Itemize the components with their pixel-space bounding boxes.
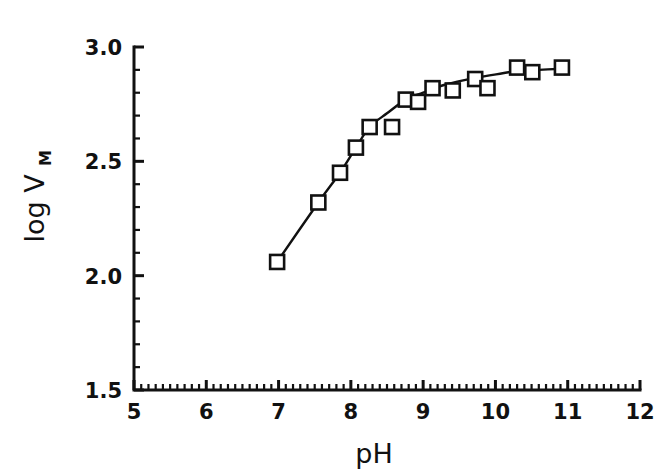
- x-tick-label: 11: [553, 400, 582, 424]
- data-point-marker: [480, 81, 494, 95]
- axis-ticks: [134, 47, 640, 390]
- x-tick-label: 9: [416, 400, 431, 424]
- data-point-marker: [426, 81, 440, 95]
- x-tick-label: 6: [199, 400, 214, 424]
- x-tick-label: 8: [344, 400, 359, 424]
- data-point-marker: [270, 255, 284, 269]
- data-point-marker: [333, 166, 347, 180]
- data-point-marker: [311, 195, 325, 209]
- y-tick-label: 3.0: [85, 36, 122, 60]
- y-axis-title: log VM: [19, 150, 55, 243]
- x-tick-label: 7: [271, 400, 286, 424]
- data-point-marker: [363, 120, 377, 134]
- y-axis-tick-labels: 1.52.02.53.0: [85, 36, 122, 403]
- x-axis-title: pH: [355, 438, 392, 469]
- y-axis-title-rotated: log VM: [19, 150, 55, 243]
- data-markers: [270, 61, 569, 269]
- plot-canvas: 56789101112 1.52.02.53.0 pH log VM: [0, 0, 665, 473]
- axis-spines: [134, 47, 640, 390]
- y-tick-label: 2.5: [85, 150, 122, 174]
- data-point-marker: [446, 83, 460, 97]
- chart-figure: 56789101112 1.52.02.53.0 pH log VM: [0, 0, 665, 473]
- axes: [134, 47, 640, 390]
- x-axis-tick-labels: 56789101112: [127, 400, 655, 424]
- y-tick-label: 1.5: [85, 379, 122, 403]
- x-axis-title-text: pH: [355, 438, 392, 469]
- x-tick-label: 10: [481, 400, 510, 424]
- y-axis-title-text: log V: [19, 174, 50, 243]
- data-point-marker: [525, 65, 539, 79]
- data-point-marker: [349, 141, 363, 155]
- data-point-marker: [411, 95, 425, 109]
- x-tick-label: 5: [127, 400, 142, 424]
- data-point-marker: [555, 61, 569, 75]
- y-axis-title-subscript: M: [36, 150, 55, 166]
- data-point-marker: [385, 120, 399, 134]
- x-tick-label: 12: [625, 400, 654, 424]
- data-point-marker: [510, 61, 524, 75]
- y-tick-label: 2.0: [85, 265, 122, 289]
